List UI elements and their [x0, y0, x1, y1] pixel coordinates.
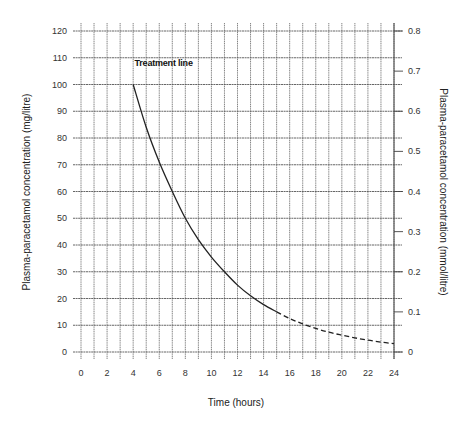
y-axis-right-title: Plasma-paracetamol concentration (mmol/l…: [438, 88, 449, 295]
y-axis-left-ticks: 0102030405060708090100110120: [52, 26, 67, 357]
x-tick-label: 14: [259, 368, 269, 378]
x-tick-label: 4: [131, 368, 136, 378]
y-tick-label: 20: [57, 294, 67, 304]
y2-tick-label: 0.6: [408, 106, 421, 116]
x-tick-label: 6: [157, 368, 162, 378]
y-axis-left-title: Plasma-paracetamol concentration (mg/lit…: [21, 94, 32, 291]
y2-tick-label: 0.3: [408, 227, 421, 237]
y-tick-label: 120: [52, 26, 67, 36]
y-tick-label: 30: [57, 267, 67, 277]
y-tick-label: 70: [57, 160, 67, 170]
y2-tick-label: 0.1: [408, 307, 421, 317]
y-tick-label: 40: [57, 240, 67, 250]
y2-tick-label: 0.7: [408, 66, 421, 76]
y-axis-right-ticks: 00.10.20.30.40.50.60.70.8: [394, 26, 421, 357]
grid-lines: [73, 23, 402, 359]
x-tick-label: 18: [311, 368, 321, 378]
x-tick-label: 16: [285, 368, 295, 378]
y2-tick-label: 0: [408, 347, 413, 357]
y-tick-label: 100: [52, 80, 67, 90]
x-tick-label: 24: [389, 368, 399, 378]
x-tick-label: 10: [206, 368, 216, 378]
y-tick-label: 110: [53, 53, 67, 63]
x-tick-label: 2: [105, 368, 110, 378]
x-tick-label: 8: [183, 368, 188, 378]
y-tick-label: 60: [57, 187, 67, 197]
treatment-line-dashed-extrapolation: [277, 312, 394, 344]
x-axis-title: Time (hours): [208, 397, 264, 408]
x-tick-label: 20: [337, 368, 347, 378]
x-tick-label: 12: [232, 368, 242, 378]
y-tick-label: 50: [57, 213, 67, 223]
x-axis-ticks: 024681012141618202224: [78, 368, 399, 378]
x-tick-label: 22: [363, 368, 373, 378]
paracetamol-nomogram-chart: 0102030405060708090100110120 00.10.20.30…: [0, 0, 470, 422]
treatment-line-solid: [133, 85, 276, 312]
y2-tick-label: 0.8: [408, 26, 421, 36]
x-tick-label: 0: [78, 368, 83, 378]
y-tick-label: 0: [62, 347, 67, 357]
y-tick-label: 90: [57, 106, 67, 116]
y-tick-label: 10: [57, 320, 67, 330]
y2-tick-label: 0.2: [408, 267, 421, 277]
y-tick-label: 80: [57, 133, 67, 143]
treatment-line-label: Treatment line: [134, 58, 192, 68]
annotations: Treatment line: [134, 58, 192, 68]
y2-tick-label: 0.5: [408, 146, 421, 156]
y2-tick-label: 0.4: [408, 187, 421, 197]
